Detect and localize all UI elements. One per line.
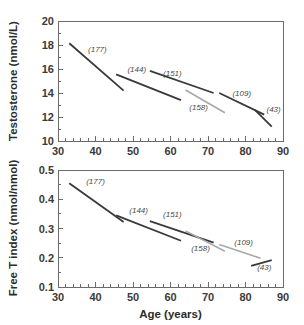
y-axis-title: Free T index (nmol/nmol)	[7, 160, 19, 296]
segment-label: (151)	[163, 69, 182, 78]
x-tick-label: 90	[277, 291, 289, 303]
x-tick-label: 60	[164, 291, 176, 303]
x-tick-label: 80	[239, 291, 251, 303]
segment-label: (43)	[267, 105, 282, 114]
plot-frame	[58, 21, 283, 141]
segment-label: (109)	[234, 238, 253, 247]
segment-label: (109)	[232, 89, 251, 98]
x-tick-label: 50	[127, 145, 139, 157]
x-tick-label: 40	[89, 145, 101, 157]
x-tick-label: 40	[89, 291, 101, 303]
x-tick-label: 50	[127, 291, 139, 303]
segment-label: (144)	[129, 206, 148, 215]
y-tick-label: 0.4	[39, 193, 55, 205]
segment-label: (43)	[257, 263, 272, 272]
y-tick-label: 0.2	[39, 252, 54, 264]
y-axis-title: Testosterone (nmol/L)	[7, 21, 19, 141]
y-tick-label: 0.1	[39, 281, 54, 293]
x-tick-label: 60	[164, 145, 176, 157]
data-segment	[219, 245, 260, 259]
segment-label: (177)	[88, 45, 107, 54]
x-tick-label: 70	[202, 291, 214, 303]
data-segment	[150, 71, 214, 93]
x-tick-label: 70	[202, 145, 214, 157]
segment-label: (151)	[163, 210, 182, 219]
y-tick-label: 0.5	[39, 164, 54, 176]
segment-label: (158)	[189, 103, 208, 112]
free-t-index-chart: 304050607080900.10.20.30.40.5Free T inde…	[0, 160, 304, 325]
figure-container: 30405060708090101214161820Testosterone (…	[0, 0, 304, 325]
segment-label: (144)	[127, 65, 146, 74]
y-tick-label: 10	[42, 135, 54, 147]
segment-label: (158)	[191, 244, 210, 253]
x-axis-title: Age (years)	[139, 308, 202, 320]
x-tick-label: 90	[277, 145, 289, 157]
y-tick-label: 20	[42, 15, 54, 27]
data-segment	[69, 183, 123, 222]
y-tick-label: 16	[42, 63, 54, 75]
y-tick-label: 0.3	[39, 223, 54, 235]
segment-label: (177)	[86, 177, 105, 186]
y-tick-label: 12	[42, 111, 54, 123]
y-tick-label: 14	[42, 87, 55, 99]
x-tick-label: 80	[239, 145, 251, 157]
y-tick-label: 18	[42, 39, 54, 51]
testosterone-chart: 30405060708090101214161820Testosterone (…	[0, 0, 304, 163]
